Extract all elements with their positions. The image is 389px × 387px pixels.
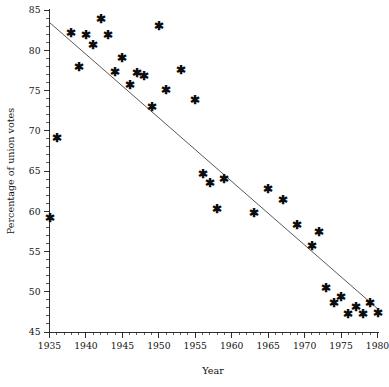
data-point-marker: ✱ <box>263 182 273 196</box>
regression-line <box>50 22 378 308</box>
data-point-marker: ✱ <box>212 202 222 216</box>
data-point-marker: ✱ <box>125 78 135 92</box>
data-point-marker: ✱ <box>117 51 127 65</box>
x-tick-label: 1955 <box>184 340 208 351</box>
data-point-marker: ✱ <box>205 176 215 190</box>
scatter-plot-figure: 1935194019451950195519601965197019751980… <box>0 0 389 387</box>
x-tick-label: 1945 <box>111 340 135 351</box>
data-point-marker: ✱ <box>88 38 98 52</box>
y-tick-label: 50 <box>29 286 41 297</box>
data-point-marker: ✱ <box>96 12 106 26</box>
data-point-marker: ✱ <box>249 206 259 220</box>
x-tick-label: 1960 <box>220 340 244 351</box>
y-tick-label: 80 <box>29 45 41 56</box>
data-point-marker: ✱ <box>110 65 120 79</box>
x-tick-label: 1975 <box>329 340 353 351</box>
y-tick-label: 65 <box>29 165 41 176</box>
chart-canvas: 1935194019451950195519601965197019751980… <box>0 0 389 387</box>
data-point-marker: ✱ <box>66 26 76 40</box>
y-tick-label: 60 <box>29 206 41 217</box>
y-axis-title: Percentage of union votes <box>5 108 16 234</box>
x-axis: 1935194019451950195519601965197019751980 <box>38 332 389 351</box>
data-point-marker: ✱ <box>147 100 157 114</box>
data-point-marker: ✱ <box>219 172 229 186</box>
y-tick-label: 75 <box>29 85 41 96</box>
x-tick-label: 1935 <box>38 340 62 351</box>
y-axis: 455055606570758085 <box>29 4 50 337</box>
data-point-marker: ✱ <box>74 60 84 74</box>
y-tick-label: 70 <box>29 125 41 136</box>
x-tick-label: 1970 <box>293 340 317 351</box>
x-tick-label: 1940 <box>74 340 98 351</box>
data-point-marker: ✱ <box>161 83 171 97</box>
y-tick-label: 45 <box>29 326 41 337</box>
data-point-marker: ✱ <box>278 193 288 207</box>
x-tick-label: 1965 <box>256 340 280 351</box>
data-point-marker: ✱ <box>154 19 164 33</box>
regression-line-segment <box>50 22 378 308</box>
y-tick-label: 55 <box>29 246 41 257</box>
data-point-marker: ✱ <box>307 239 317 253</box>
data-points: ✱✱✱✱✱✱✱✱✱✱✱✱✱✱✱✱✱✱✱✱✱✱✱✱✱✱✱✱✱✱✱✱✱✱✱✱ <box>45 12 383 321</box>
data-point-marker: ✱ <box>139 69 149 83</box>
data-point-marker: ✱ <box>336 290 346 304</box>
data-point-marker: ✱ <box>321 281 331 295</box>
data-point-marker: ✱ <box>45 211 55 225</box>
data-point-marker: ✱ <box>373 306 383 320</box>
x-tick-label: 1950 <box>147 340 171 351</box>
y-tick-label: 85 <box>29 4 41 15</box>
x-axis-title: Year <box>201 365 224 376</box>
data-point-marker: ✱ <box>52 131 62 145</box>
data-point-marker: ✱ <box>103 28 113 42</box>
data-point-marker: ✱ <box>190 93 200 107</box>
x-tick-label: 1980 <box>366 340 389 351</box>
data-point-marker: ✱ <box>176 63 186 77</box>
data-point-marker: ✱ <box>292 218 302 232</box>
data-point-marker: ✱ <box>314 225 324 239</box>
